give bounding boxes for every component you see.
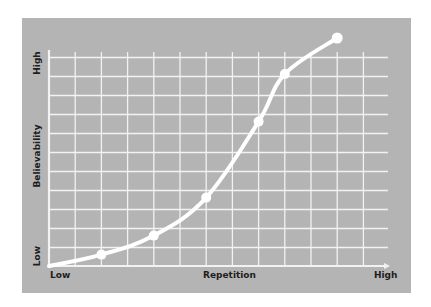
data-markers <box>96 33 342 260</box>
data-point-marker <box>149 231 159 241</box>
x-high-label: High <box>374 270 397 280</box>
y-low-label: Low <box>32 244 42 268</box>
x-axis-title: Repetition <box>203 270 256 280</box>
grid-lines <box>49 52 388 266</box>
y-axis-title: Believability <box>32 122 42 190</box>
x-low-label: Low <box>50 270 70 280</box>
data-point-marker <box>96 250 106 260</box>
y-high-label: High <box>32 48 42 78</box>
data-point-marker <box>201 193 211 203</box>
data-point-marker <box>254 117 264 127</box>
data-point-marker <box>332 33 343 44</box>
axes <box>49 50 390 269</box>
chart-plot <box>0 0 431 307</box>
data-point-marker <box>280 69 290 79</box>
